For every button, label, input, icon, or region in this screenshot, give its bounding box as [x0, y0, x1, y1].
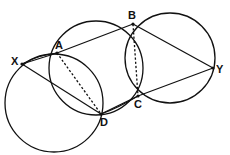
point-b: [131, 22, 134, 25]
segment-ab: [57, 24, 133, 53]
label-d: D: [100, 116, 108, 128]
segment-by: [133, 24, 213, 68]
circle-left: [5, 54, 103, 152]
label-a: A: [55, 39, 63, 51]
point-x: [20, 62, 23, 65]
point-a: [55, 51, 58, 54]
segment-dx: [22, 64, 101, 114]
point-y: [211, 66, 214, 69]
label-x: X: [11, 55, 19, 67]
label-b: B: [128, 9, 136, 21]
label-c: C: [134, 98, 142, 110]
segment-yc: [138, 68, 213, 96]
dashed-segment-ad: [57, 53, 101, 114]
geometry-diagram: X A B Y C D: [0, 0, 230, 155]
label-y: Y: [216, 63, 224, 75]
segment-xa: [22, 53, 57, 64]
